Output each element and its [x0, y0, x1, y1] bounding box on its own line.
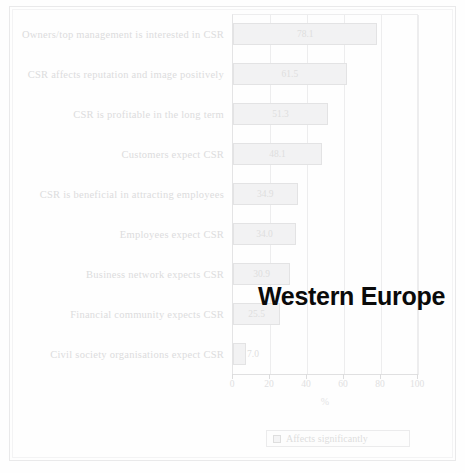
category-label: Financial community expects CSR: [10, 308, 224, 321]
axis-tick-label: 80: [365, 379, 395, 389]
bar-row: 51.3: [233, 95, 418, 135]
legend-swatch-icon: [273, 435, 281, 443]
bar-row: 7.0: [233, 335, 418, 375]
chart-legend: Affects significantly: [266, 430, 410, 447]
bar-row: 61.5: [233, 55, 418, 95]
axis-tick-label: 40: [291, 379, 321, 389]
bar-value-label: 34.0: [244, 223, 284, 245]
plot-area: 78.161.551.348.134.934.030.925.57.0: [232, 14, 418, 375]
x-axis-tick-labels: 020406080100: [232, 379, 418, 393]
category-label: CSR is profitable in the long term: [10, 108, 224, 121]
region-annotation: Western Europe: [258, 282, 445, 311]
bar-row: 48.1: [233, 135, 418, 175]
category-label: Customers expect CSR: [10, 148, 224, 161]
bar-value-label: 48.1: [257, 143, 297, 165]
gridline: [418, 15, 419, 375]
bar-value-label: 34.9: [245, 183, 285, 205]
axis-tick-label: 20: [254, 379, 284, 389]
bar-value-label: 78.1: [285, 23, 325, 45]
axis-tick-label: 100: [402, 379, 432, 389]
bar-row: 78.1: [233, 15, 418, 55]
category-label: CSR is beneficial in attracting employee…: [10, 188, 224, 201]
axis-tick-label: 0: [217, 379, 247, 389]
bar-row: 34.9: [233, 175, 418, 215]
bar-value-label: 61.5: [270, 63, 310, 85]
bar-row: 34.0: [233, 215, 418, 255]
plot-right-border: [417, 14, 418, 375]
chart-screenshot: Owners/top management is interested in C…: [0, 0, 465, 473]
category-axis-labels: Owners/top management is interested in C…: [10, 14, 228, 374]
category-label: Owners/top management is interested in C…: [10, 28, 224, 41]
bar-value-label: 51.3: [260, 103, 300, 125]
legend-entry-label: Affects significantly: [286, 433, 368, 444]
category-label: CSR affects reputation and image positiv…: [10, 68, 224, 81]
bar-value-label: 7.0: [233, 343, 273, 365]
x-axis-title: %: [232, 396, 418, 407]
category-label: Employees expect CSR: [10, 228, 224, 241]
category-label: Business network expects CSR: [10, 268, 224, 281]
category-label: Civil society organisations expect CSR: [10, 348, 224, 361]
axis-tick-label: 60: [328, 379, 358, 389]
